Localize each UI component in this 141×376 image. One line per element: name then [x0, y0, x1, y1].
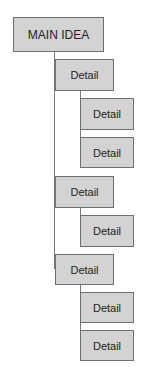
- detail-box-level-2: Detail: [80, 292, 134, 323]
- detail-box-level-1: Detail: [55, 59, 114, 91]
- detail-box-level-2: Detail: [80, 98, 134, 130]
- detail-box-level-2: Detail: [80, 137, 134, 168]
- detail-box-level-2: Detail: [80, 215, 134, 247]
- detail-box-level-2: Detail: [80, 330, 134, 361]
- detail-box-level-1: Detail: [55, 254, 114, 285]
- main-idea-box: MAIN IDEA: [13, 17, 104, 52]
- detail-box-level-1: Detail: [55, 176, 114, 208]
